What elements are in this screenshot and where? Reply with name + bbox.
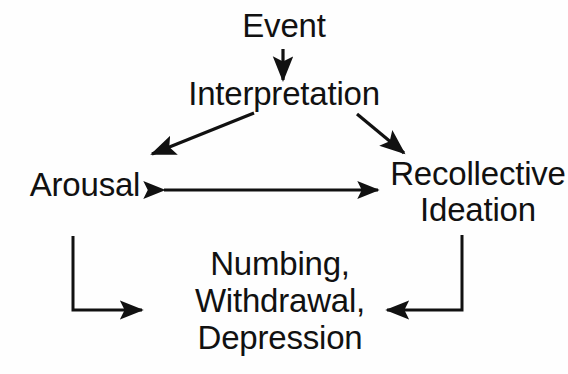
node-arousal-label: Arousal (10, 167, 160, 203)
node-interpretation-label: Interpretation (0, 76, 568, 112)
node-interpretation: Interpretation (0, 76, 568, 112)
edge-arousal-to-outcome (73, 236, 142, 310)
node-event: Event (0, 8, 568, 44)
diagram-canvas: Event Interpretation Arousal Recollectiv… (0, 0, 568, 374)
edge-interpretation-to-arousal (152, 113, 254, 154)
node-recollective-ideation-label-line1: Recollective (388, 156, 568, 192)
node-outcome-label-line1: Numbing, (180, 246, 380, 283)
node-arousal: Arousal (10, 167, 160, 203)
node-recollective-ideation: Recollective Ideation (388, 156, 568, 227)
node-outcome-label-line3: Depression (180, 320, 380, 357)
node-event-label: Event (0, 8, 568, 44)
node-outcome-label-line2: Withdrawal, (180, 283, 380, 320)
edge-recollective-ideation-to-outcome (387, 235, 462, 310)
edge-interpretation-to-recollective-ideation (357, 114, 404, 153)
node-outcome: Numbing, Withdrawal, Depression (180, 246, 380, 357)
node-recollective-ideation-label-line2: Ideation (388, 192, 568, 228)
